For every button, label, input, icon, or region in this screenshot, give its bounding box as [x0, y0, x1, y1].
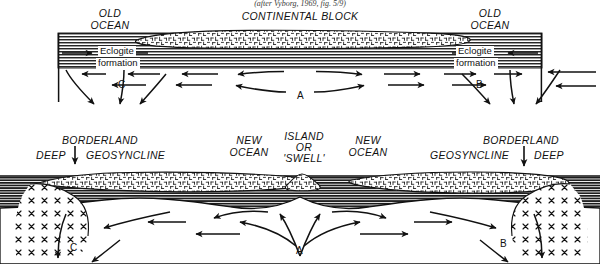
- lower-point-a-label: A: [296, 245, 303, 256]
- upper-outer-inflow-right: [548, 72, 596, 86]
- lower-left-geosyncline-label: GEOSYNCLINE: [86, 150, 165, 162]
- lower-right-deep-label: DEEP: [534, 150, 564, 162]
- continental-block: [136, 30, 471, 48]
- upper-right-eclogite-label-line2: formation: [454, 58, 498, 69]
- lower-point-b-label: B: [500, 238, 507, 249]
- lower-new-ocean-right-label: NEW OCEAN: [349, 135, 388, 159]
- upper-descending-limbs-left: [66, 70, 166, 104]
- upper-point-a-label: A: [297, 90, 304, 101]
- lower-left-continent: [40, 172, 314, 192]
- figure-caption-top: (after Vyborg, 1969, fig. 5/9): [254, 0, 346, 8]
- upper-return-flow-row1: [82, 72, 522, 75]
- upper-left-ocean-label: OLD OCEAN: [91, 8, 130, 32]
- lower-left-borderland-label: BORDERLAND: [62, 135, 138, 147]
- lower-left-deep-label: DEEP: [36, 150, 66, 162]
- figure-root: (after Vyborg, 1969, fig. 5/9) OLD OCEAN…: [0, 0, 600, 264]
- upper-right-ocean-label: OLD OCEAN: [471, 8, 510, 32]
- continental-block-label: CONTINENTAL BLOCK: [242, 11, 359, 23]
- lower-island-label-line3: 'SWELL': [283, 153, 325, 165]
- upper-right-eclogite-label-line1: Eclogite: [456, 46, 494, 57]
- upper-left-eclogite-label-line1: Eclogite: [98, 46, 136, 57]
- lower-new-ocean-left-label: NEW OCEAN: [230, 135, 269, 159]
- upper-left-eclogite-label-line2: formation: [96, 58, 140, 69]
- lower-right-borderland-label: BORDERLAND: [483, 135, 559, 147]
- lower-point-c-label: C: [70, 242, 77, 253]
- lower-right-geosyncline-label: GEOSYNCLINE: [430, 150, 509, 162]
- upper-point-b-label: B: [476, 79, 483, 90]
- upper-point-c-label: C: [118, 79, 125, 90]
